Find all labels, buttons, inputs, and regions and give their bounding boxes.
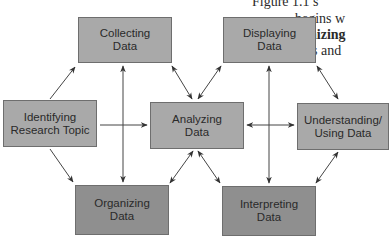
node-interpreting-data: Interpreting Data [222, 186, 316, 236]
arrow-displaying-understanding [317, 66, 338, 99]
arrow-understanding-interpreting [316, 152, 338, 183]
arrow-displaying-analyzing [198, 66, 221, 99]
arrow-analyzing-organizing [170, 151, 193, 183]
node-identifying-research-topic: Identifying Research Topic [3, 100, 97, 147]
arrow-identifying-to-organizing [50, 149, 73, 182]
node-collecting-data: Collecting Data [78, 17, 172, 63]
arrow-collecting-analyzing [172, 66, 192, 99]
node-understanding-using-data: Understanding/ Using Data [297, 103, 389, 150]
arrow-identifying-to-collecting [50, 67, 75, 99]
node-analyzing-data: Analyzing Data [150, 102, 244, 149]
arrow-analyzing-interpreting [198, 151, 220, 183]
node-organizing-data: Organizing Data [75, 185, 169, 235]
node-displaying-data: Displaying Data [223, 17, 316, 63]
